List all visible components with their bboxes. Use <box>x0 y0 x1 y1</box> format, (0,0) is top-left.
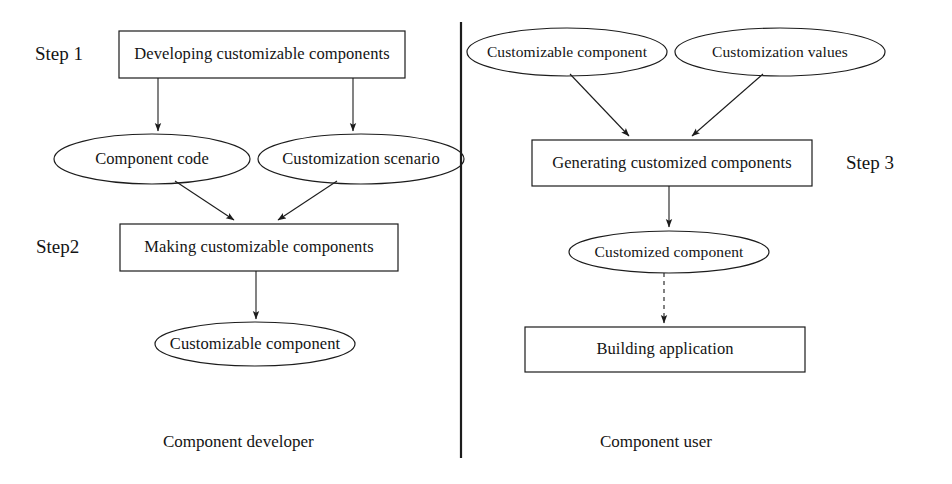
step-label-step2: Step2 <box>36 236 79 258</box>
node-building-application[interactable] <box>525 327 805 372</box>
node-customizable-component-left[interactable] <box>155 322 355 366</box>
edge-customizable-component-to-generating <box>570 74 629 136</box>
node-customization-values[interactable] <box>675 28 885 76</box>
diagram-svg <box>0 0 952 484</box>
step-label-step1: Step 1 <box>35 43 83 65</box>
edge-customization-values-to-generating <box>692 74 763 136</box>
node-component-code[interactable] <box>54 134 250 184</box>
node-customization-scenario[interactable] <box>258 134 464 184</box>
edge-customization-scenario-to-making <box>278 181 337 220</box>
step-label-step3: Step 3 <box>846 152 894 174</box>
role-label-component-developer: Component developer <box>163 432 314 452</box>
node-generating-customized-components[interactable] <box>532 140 812 186</box>
role-label-component-user: Component user <box>600 432 712 452</box>
node-making-customizable-components[interactable] <box>120 224 398 271</box>
node-developing-customizable-components[interactable] <box>119 31 405 78</box>
figure-canvas: Step 1 Step2 Developing customizable com… <box>0 0 952 484</box>
node-customized-component[interactable] <box>569 231 769 273</box>
edge-component-code-to-making <box>175 181 234 220</box>
node-customizable-component-right[interactable] <box>467 28 667 76</box>
